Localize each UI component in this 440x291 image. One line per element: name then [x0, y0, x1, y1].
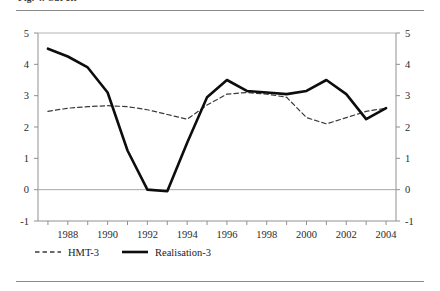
- x-tick-label: 2000: [296, 229, 317, 240]
- y-tick-label-right: -1: [405, 216, 414, 227]
- x-tick-label: 1988: [57, 229, 78, 240]
- x-tick-label: 1990: [97, 229, 118, 240]
- x-tick-label: 2002: [336, 229, 357, 240]
- x-tick-label: 1992: [137, 229, 158, 240]
- x-tick-label: 1998: [256, 229, 277, 240]
- y-tick-label-right: 2: [405, 122, 410, 133]
- chart-legend: HMT-3Realisation-3: [35, 247, 211, 258]
- x-tick-label: 1994: [177, 229, 199, 240]
- legend-label-realisation-3: Realisation-3: [155, 247, 211, 258]
- figure-caption-clipped: Fig. 4. Cut off: [18, 0, 77, 6]
- y-tick-label-left: 5: [24, 28, 29, 39]
- x-tick-label: 2004: [376, 229, 398, 240]
- y-tick-label-left: -1: [20, 216, 29, 227]
- y-tick-label-right: 0: [405, 184, 410, 195]
- axes-layer: -1-1001122334455198819901992199419961998…: [20, 28, 414, 240]
- line-chart: -1-1001122334455198819901992199419961998…: [0, 0, 440, 265]
- series-layer: [48, 49, 386, 192]
- y-tick-label-left: 3: [24, 90, 29, 101]
- y-tick-label-right: 1: [405, 153, 410, 164]
- y-tick-label-left: 0: [24, 184, 29, 195]
- bottom-divider-rule: [16, 281, 424, 282]
- y-tick-label-left: 2: [24, 122, 29, 133]
- y-tick-label-left: 4: [24, 59, 30, 70]
- y-tick-label-right: 4: [405, 59, 411, 70]
- y-tick-label-left: 1: [24, 153, 29, 164]
- series-line-realisation-3: [48, 49, 386, 192]
- series-line-hmt-3: [48, 93, 386, 124]
- x-tick-label: 1996: [216, 229, 237, 240]
- y-tick-label-right: 5: [405, 28, 410, 39]
- y-tick-label-right: 3: [405, 90, 410, 101]
- legend-label-hmt-3: HMT-3: [68, 247, 99, 258]
- figure-container: Fig. 4. Cut off -1-100112233445519881990…: [0, 0, 440, 291]
- top-divider-rule: [16, 10, 424, 11]
